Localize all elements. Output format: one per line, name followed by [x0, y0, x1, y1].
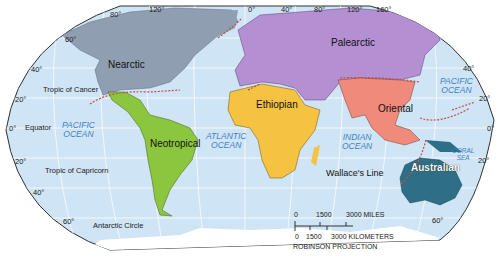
scale-miles-1500: 1500 — [316, 211, 332, 218]
scale-miles-0: 0 — [294, 211, 298, 218]
scale-km-3000: 3000 KILOMETERS — [331, 233, 394, 240]
latitude-label: 60° — [63, 218, 74, 226]
scale-km-0: 0 — [295, 233, 299, 240]
label-wallaces-line: Wallace's Line — [326, 169, 383, 178]
label-neotropical: Neotropical — [150, 139, 201, 149]
label-coral-sea: CORALSEA — [452, 148, 474, 162]
projection-label: ROBINSON PROJECTION — [293, 243, 377, 250]
scale-miles-3000: 3000 MILES — [346, 211, 385, 218]
longitude-label: 80° — [314, 6, 325, 14]
latitude-label: 20° — [15, 96, 26, 104]
label-ethiopian: Ethiopian — [256, 100, 298, 110]
latitude-label: 20° — [478, 157, 489, 165]
label-tropic-of-capricorn: Tropic of Capricorn — [45, 167, 109, 175]
latitude-label: 0° — [487, 125, 494, 133]
scale-km-1500: 1500 — [306, 233, 322, 240]
label-pacific-ocean-west: PACIFICOCEAN — [62, 121, 95, 139]
longitude-label: 0° — [248, 6, 255, 14]
latitude-label: 60° — [65, 36, 76, 44]
label-atlantic-ocean: ATLANTICOCEAN — [206, 132, 246, 150]
label-indian-ocean: INDIANOCEAN — [342, 133, 372, 151]
latitude-label: 60° — [432, 217, 443, 225]
longitude-label: 160° — [376, 6, 392, 14]
longitude-label: 120° — [347, 6, 363, 14]
label-pacific-ocean-east: PACIFICOCEAN — [440, 77, 473, 95]
latitude-label: 20° — [15, 158, 26, 166]
label-palearctic: Palearctic — [331, 38, 375, 48]
latitude-label: 20° — [479, 95, 490, 103]
longitude-label: 120° — [149, 6, 165, 14]
latitude-label: 0° — [9, 125, 16, 133]
label-tropic-of-cancer: Tropic of Cancer — [43, 86, 98, 94]
scale-ruler — [294, 220, 354, 232]
latitude-label: 40° — [33, 189, 44, 197]
longitude-label: 80° — [110, 11, 121, 19]
longitude-label: 40° — [281, 6, 292, 14]
latitude-label: 40° — [31, 66, 42, 74]
latitude-label: 40° — [463, 65, 474, 73]
label-oriental: Oriental — [378, 104, 413, 114]
label-antarctic-circle: Antarctic Circle — [93, 222, 143, 230]
label-nearctic: Nearctic — [108, 60, 145, 70]
label-australian: Australian — [411, 163, 460, 173]
label-equator: Equator — [25, 124, 51, 132]
